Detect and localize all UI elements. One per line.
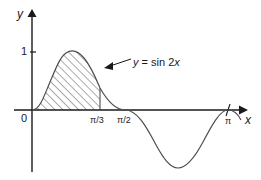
y-axis-label: y [17,8,23,20]
y-axis-arrow [28,9,37,17]
x-tick-label-pi-over-3: π/3 [90,116,104,125]
figure-container: y x 1 0 π/3 π/2 π y = sin 2x [0,0,261,180]
curve-label-equals: = sin 2 [139,56,175,68]
curve-label-x: x [174,56,180,68]
curve-equation-label: y = sin 2x [133,57,180,68]
origin-label: 0 [21,113,27,124]
y-axis [28,9,37,172]
y-tick-label-1: 1 [21,46,27,57]
x-axis-label: x [245,114,251,126]
plot-svg [0,0,261,180]
x-tick-label-pi-over-2: π/2 [117,116,131,125]
x-tick-label-pi: π [225,117,231,126]
curve-label-pointer [104,59,131,70]
